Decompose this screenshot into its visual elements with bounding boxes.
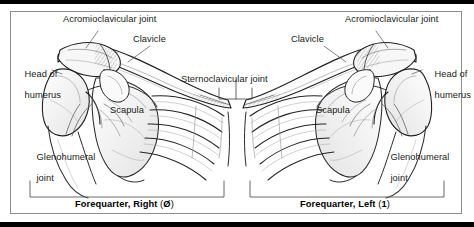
caption-left-forequarter: Forequarter, Left (1) [300,199,390,209]
label-glenohumeral-joint-left-line1: Glenohumeral [391,152,450,162]
label-glenohumeral-joint-right: Glenohumeral joint [26,141,95,194]
label-head-of-humerus-left-line1: Head of [435,69,468,79]
label-acromioclavicular-joint-left: Acromioclavicular joint [345,14,438,25]
label-head-of-humerus-right-line2: humerus [25,90,61,100]
label-scapula-right: Scapula [110,105,144,116]
label-glenohumeral-joint-right-line2: joint [37,173,54,183]
label-scapula-left: Scapula [316,105,350,116]
label-head-of-humerus-left: Head of humerus [424,58,471,111]
label-head-of-humerus-right: Head of humerus [14,58,61,111]
caption-right-code: Ø [163,199,170,209]
label-head-of-humerus-left-line2: humerus [435,90,471,100]
label-acromioclavicular-joint-right: Acromioclavicular joint [63,14,156,25]
forequarter-figure: Acromioclavicular joint Clavicle Head of… [0,0,474,227]
label-sternoclavicular-joint: Sternoclavicular joint [181,74,268,85]
label-clavicle-right: Clavicle [133,34,166,45]
caption-right-forequarter: Forequarter, Right (Ø) [75,199,174,209]
caption-left-text: Forequarter, Left [300,199,376,209]
label-glenohumeral-joint-left-line2: joint [391,173,408,183]
caption-right-text: Forequarter, Right [75,199,157,209]
label-glenohumeral-joint-left: Glenohumeral joint [380,141,449,194]
label-clavicle-left: Clavicle [291,34,324,45]
label-head-of-humerus-right-line1: Head of [25,69,58,79]
label-glenohumeral-joint-right-line1: Glenohumeral [37,152,96,162]
